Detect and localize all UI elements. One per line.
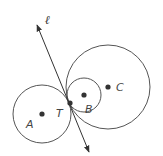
point-c (105, 84, 110, 89)
label-line-l: ℓ (45, 13, 50, 27)
tangent-line-l (37, 25, 89, 152)
label-a: A (25, 118, 34, 131)
label-c: C (116, 81, 124, 94)
point-a (39, 111, 44, 116)
tangent-circles-diagram: ℓ A T B C (0, 0, 163, 156)
point-b (81, 92, 86, 97)
label-t: T (56, 107, 64, 120)
label-b: B (85, 103, 93, 116)
point-t (67, 100, 72, 105)
